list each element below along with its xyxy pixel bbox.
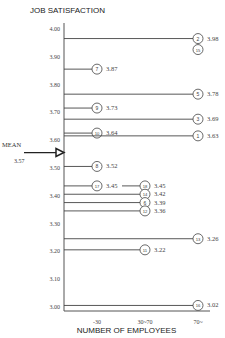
data-marker-id: 1	[197, 133, 200, 139]
data-marker-id: 10	[95, 131, 100, 136]
y-tick-label: 3.30	[50, 221, 61, 227]
data-value-label: 3.63	[207, 132, 218, 139]
data-marker-id: 14	[143, 192, 148, 197]
data-value-label: 3.45	[154, 182, 165, 189]
y-tick-label: 3.60	[50, 137, 61, 143]
data-value-label: 3.52	[106, 162, 117, 169]
data-marker-id: 11	[143, 248, 148, 253]
data-marker-id: 18	[143, 184, 148, 189]
x-tick-label: -30	[93, 319, 101, 325]
data-value-label: 3.78	[207, 90, 218, 97]
y-tick-label: 3.70	[50, 109, 61, 115]
data-value-label: 3.98	[207, 35, 218, 42]
data-marker-id: 15	[196, 48, 201, 53]
data-value-label: 3.26	[207, 235, 219, 242]
data-marker-id: 6	[144, 200, 147, 206]
data-marker-id: 12	[143, 209, 148, 214]
data-value-label: 3.42	[154, 190, 165, 197]
y-tick-label: 3.20	[50, 248, 61, 254]
data-marker-id: 17	[95, 184, 100, 189]
y-tick-label: 3.10	[50, 276, 61, 282]
data-value-label: 3.39	[154, 199, 165, 206]
y-tick-label: 3.50	[50, 165, 61, 171]
data-marker-id: 2	[197, 36, 200, 42]
y-tick-label: 3.90	[50, 54, 61, 60]
mean-arrow-head-icon	[56, 149, 64, 157]
y-tick-label: 4.00	[50, 26, 61, 32]
job-satisfaction-chart: 4.003.903.803.703.603.503.403.303.203.10…	[0, 0, 225, 338]
mean-value: 3.57	[14, 158, 25, 164]
data-marker-id: 7	[96, 66, 99, 72]
data-value-label: 3.36	[154, 207, 166, 214]
x-tick-label: 30~70	[137, 319, 152, 325]
data-marker-id: 16	[196, 303, 201, 308]
data-marker-id: 5	[197, 91, 200, 97]
data-value-label: 3.45	[106, 182, 117, 189]
data-value-label: 3.69	[207, 115, 218, 122]
data-marker-id: 8	[96, 163, 99, 169]
data-marker-id: 3	[197, 116, 200, 122]
mean-label: MEAN	[2, 141, 21, 148]
data-value-label: 3.87	[106, 65, 118, 72]
x-tick-label: 70~	[193, 319, 203, 325]
data-value-label: 3.73	[106, 104, 117, 111]
data-marker-id: 13	[196, 237, 201, 242]
x-axis-title: NUMBER OF EMPLOYEES	[0, 326, 225, 335]
data-marker-id: 9	[96, 105, 99, 111]
y-tick-label: 3.80	[50, 82, 61, 88]
data-value-label: 3.02	[207, 301, 218, 308]
y-tick-label: 3.40	[50, 193, 61, 199]
y-tick-label: 3.00	[50, 304, 61, 310]
data-value-label: 3.22	[154, 246, 165, 253]
data-value-label: 3.64	[106, 129, 118, 136]
